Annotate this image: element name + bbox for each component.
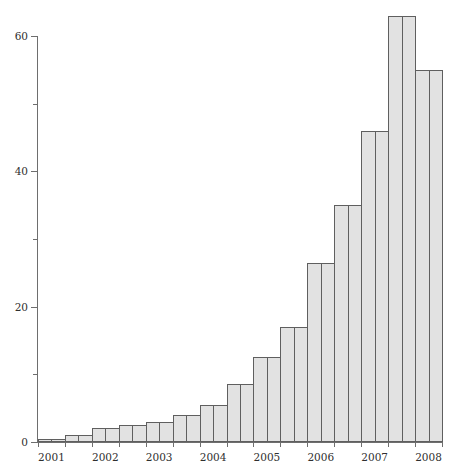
bar bbox=[159, 422, 173, 442]
x-axis-tick bbox=[65, 442, 66, 447]
x-axis-tick bbox=[173, 442, 174, 447]
bar bbox=[334, 205, 348, 442]
bar bbox=[321, 263, 335, 442]
bar bbox=[227, 384, 241, 442]
x-axis-label-2008: 2008 bbox=[415, 452, 442, 463]
x-axis-tick bbox=[442, 442, 443, 447]
bar-chart: 0204060 20012002200320042005200620072008 bbox=[0, 0, 451, 476]
x-axis-label-2007: 2007 bbox=[361, 452, 388, 463]
bar bbox=[65, 435, 79, 442]
x-axis-label-2001: 2001 bbox=[38, 452, 65, 463]
x-axis-tick bbox=[146, 442, 147, 447]
x-axis-label-2006: 2006 bbox=[307, 452, 334, 463]
x-axis-tick bbox=[334, 442, 335, 447]
x-axis-tick bbox=[92, 442, 93, 447]
bar bbox=[348, 205, 362, 442]
bar bbox=[402, 16, 416, 442]
x-axis-tick bbox=[280, 442, 281, 447]
x-axis-tick bbox=[200, 442, 201, 447]
x-axis-tick bbox=[38, 442, 39, 447]
bar bbox=[173, 415, 187, 442]
x-axis-tick bbox=[361, 442, 362, 447]
bar bbox=[294, 327, 308, 442]
bar bbox=[415, 70, 429, 442]
x-axis-label-2002: 2002 bbox=[92, 452, 119, 463]
bar bbox=[132, 425, 146, 442]
bar bbox=[280, 327, 294, 442]
bar bbox=[375, 131, 389, 442]
x-axis-tick bbox=[307, 442, 308, 447]
x-axis-label-2003: 2003 bbox=[146, 452, 173, 463]
bar bbox=[253, 357, 267, 442]
bar bbox=[51, 439, 65, 442]
bar bbox=[78, 435, 92, 442]
x-axis-label-2005: 2005 bbox=[254, 452, 281, 463]
bars-layer bbox=[0, 0, 451, 476]
bar bbox=[361, 131, 375, 442]
bar bbox=[119, 425, 133, 442]
x-axis-tick bbox=[227, 442, 228, 447]
bar bbox=[213, 405, 227, 442]
bar bbox=[186, 415, 200, 442]
bar bbox=[38, 439, 52, 442]
bar bbox=[429, 70, 443, 442]
bar bbox=[200, 405, 214, 442]
bar bbox=[146, 422, 160, 442]
bar bbox=[267, 357, 281, 442]
x-axis-label-2004: 2004 bbox=[200, 452, 227, 463]
x-axis-tick bbox=[119, 442, 120, 447]
bar bbox=[240, 384, 254, 442]
bar bbox=[307, 263, 321, 442]
bar bbox=[92, 428, 106, 442]
x-axis-tick bbox=[415, 442, 416, 447]
bar bbox=[105, 428, 119, 442]
x-axis-tick bbox=[388, 442, 389, 447]
bar bbox=[388, 16, 402, 442]
x-axis-tick bbox=[253, 442, 254, 447]
